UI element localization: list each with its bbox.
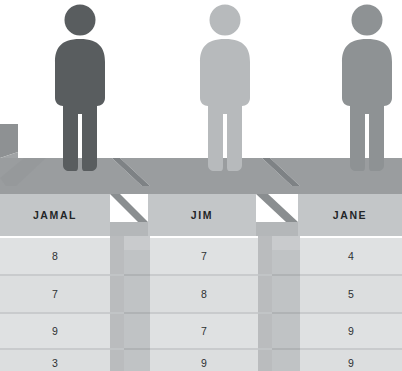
table-cell[interactable]: 7 xyxy=(0,276,110,312)
table-cell[interactable]: 9 xyxy=(150,350,258,371)
gutter-separator xyxy=(258,348,300,350)
cell-value: 7 xyxy=(201,251,207,262)
cell-value: 9 xyxy=(201,358,207,369)
bevel-header-gap-1 xyxy=(110,222,148,236)
table-cell[interactable]: 5 xyxy=(300,276,402,312)
gutter-separator xyxy=(110,348,150,350)
header-bevels xyxy=(0,186,402,246)
infographic-canvas: JAMAL JIM JANE 8 7 4 7 8 5 9 7 xyxy=(0,0,402,371)
table-cell[interactable]: 7 xyxy=(150,238,258,274)
table-cell[interactable]: 9 xyxy=(300,314,402,348)
cell-value: 5 xyxy=(348,289,354,300)
person-pictogram-icon xyxy=(331,2,402,172)
jane-figure xyxy=(331,2,402,172)
cell-value: 9 xyxy=(52,326,58,337)
gutter-separator xyxy=(258,274,300,276)
cell-value: 3 xyxy=(52,358,58,369)
column-gutter-1-shadow xyxy=(110,236,124,371)
column-gutter-2-shadow xyxy=(258,236,272,371)
person-pictogram-icon xyxy=(189,2,261,172)
table-cell[interactable]: 7 xyxy=(150,314,258,348)
cell-value: 7 xyxy=(201,326,207,337)
person-pictogram-icon xyxy=(44,2,116,172)
cell-value: 4 xyxy=(348,251,354,262)
table-cell[interactable]: 8 xyxy=(150,276,258,312)
left-stub-top xyxy=(0,124,18,158)
cell-value: 7 xyxy=(52,289,58,300)
jamal-figure xyxy=(44,2,116,172)
gutter-separator xyxy=(258,312,300,314)
cell-value: 9 xyxy=(348,358,354,369)
table-cell[interactable]: 9 xyxy=(300,350,402,371)
bevel-header-gap-2 xyxy=(256,222,298,236)
gutter-separator xyxy=(110,312,150,314)
cell-value: 9 xyxy=(348,326,354,337)
cell-value: 8 xyxy=(52,251,58,262)
bevel-header-jamal-jim xyxy=(110,194,148,222)
cell-value: 8 xyxy=(201,289,207,300)
gutter-separator xyxy=(110,274,150,276)
table-cell[interactable]: 8 xyxy=(0,238,110,274)
table-cell[interactable]: 9 xyxy=(0,314,110,348)
table-cell[interactable]: 3 xyxy=(0,350,110,371)
bevel-header-jim-jane xyxy=(256,194,298,222)
table-cell[interactable]: 4 xyxy=(300,238,402,274)
jim-figure xyxy=(189,2,261,172)
